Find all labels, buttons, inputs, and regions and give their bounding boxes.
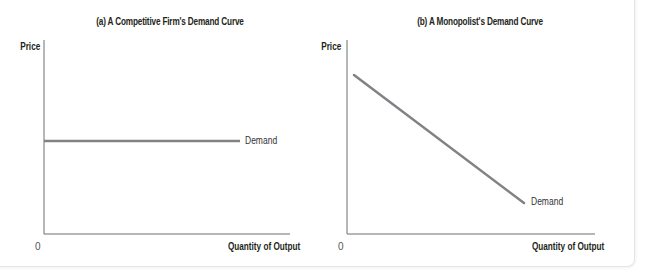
charts-svg (0, 0, 646, 279)
panel-b-axes (347, 40, 595, 234)
panel-a-axes (44, 40, 290, 234)
panel-b-demand-line (354, 75, 524, 203)
